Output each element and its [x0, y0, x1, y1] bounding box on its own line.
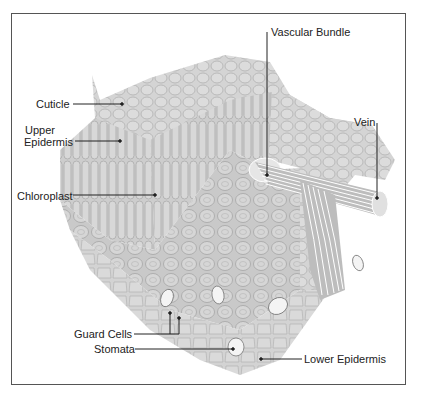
label-vein: Vein — [354, 116, 375, 128]
label-stomata: Stomata — [94, 343, 135, 355]
label-lower-epidermis: Lower Epidermis — [304, 353, 386, 365]
label-cuticle: Cuticle — [36, 98, 70, 110]
label-upper-epidermis-line2: Epidermis — [24, 136, 73, 148]
label-upper-epidermis-line1: Upper — [25, 124, 55, 136]
label-guard-cells: Guard Cells — [74, 328, 132, 340]
label-chloroplast: Chloroplast — [17, 190, 73, 202]
label-vascular-bundle: Vascular Bundle — [271, 26, 350, 38]
